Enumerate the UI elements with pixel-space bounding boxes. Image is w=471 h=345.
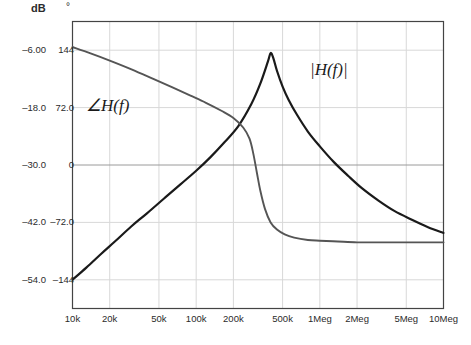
x-tick: 10k: [65, 313, 80, 324]
y-tick-db: –54.0: [12, 274, 46, 285]
data-series-layer: [73, 47, 444, 280]
y-tick-db: –6.00: [12, 44, 46, 55]
y-tick-degree: 72.0: [48, 102, 74, 113]
y-tick-degree: –72.0: [48, 216, 74, 227]
series-magnitude: [73, 53, 444, 280]
y-tick-db: –42.0: [12, 216, 46, 227]
x-tick: 5Meg: [394, 313, 418, 324]
x-tick: 10Meg: [429, 313, 458, 324]
x-tick: 50k: [151, 313, 166, 324]
x-tick: 20k: [102, 313, 117, 324]
annotation-phase: ∠H(f): [86, 95, 129, 116]
x-tick: 100k: [186, 313, 207, 324]
series-phase: [73, 47, 444, 242]
x-tick: 2Meg: [345, 313, 369, 324]
y-tick-degree: –144: [48, 274, 74, 285]
bode-plot: dB ° –6.00–18.0–30.0–42.0–54.0 14472.00–…: [0, 0, 471, 345]
y-tick-db: –30.0: [12, 159, 46, 170]
y-tick-degree: 144: [48, 44, 74, 55]
y-tick-db: –18.0: [12, 102, 46, 113]
gridlines: [73, 22, 444, 309]
x-tick: 200k: [223, 313, 244, 324]
annotation-magnitude: |H(f)|: [310, 60, 348, 80]
x-tick: 1Meg: [308, 313, 332, 324]
x-tick: 500k: [272, 313, 293, 324]
y-tick-degree: 0: [48, 159, 74, 170]
